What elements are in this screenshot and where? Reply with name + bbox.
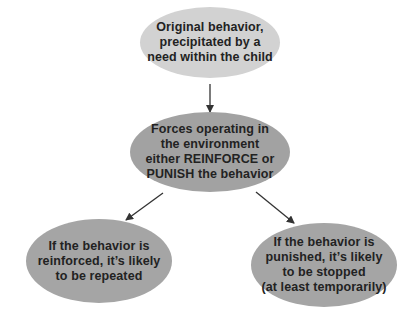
node-original-behavior: Original behavior, precipitated by a nee… <box>140 7 280 78</box>
node-punished-outcome: If the behavior is punished, it’s likely… <box>251 223 397 307</box>
node-reinforced-outcome-text: If the behavior is reinforced, it’s like… <box>38 239 161 284</box>
node-environment-forces: Forces operating in the environment eith… <box>130 112 290 192</box>
node-original-behavior-text: Original behavior, precipitated by a nee… <box>147 20 273 65</box>
arrow-middle-to-right <box>256 192 294 223</box>
node-reinforced-outcome: If the behavior is reinforced, it’s like… <box>26 219 172 303</box>
node-environment-forces-text: Forces operating in the environment eith… <box>146 122 275 182</box>
arrow-middle-to-left <box>126 193 163 220</box>
node-punished-outcome-text: If the behavior is punished, it’s likely… <box>261 235 386 295</box>
diagram-canvas: Original behavior, precipitated by a nee… <box>0 0 416 320</box>
